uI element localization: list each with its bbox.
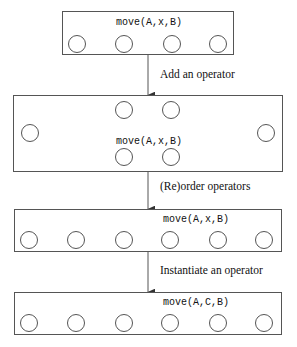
plan-step-node: [255, 314, 273, 332]
transition-add-operator-label: Add an operator: [160, 68, 235, 81]
plan-step-node: [115, 101, 133, 119]
plan-box-3: [14, 209, 282, 252]
plan-step-node: [67, 314, 85, 332]
plan-step-node: [20, 314, 38, 332]
plan-step-node: [209, 231, 227, 249]
transition-reorder-operators-label: (Re)order operators: [160, 180, 250, 193]
plan-box-2: [13, 95, 283, 172]
plan-step-node: [163, 35, 181, 53]
operator-label: move(A,x,B): [116, 17, 182, 28]
plan-step-node: [162, 101, 180, 119]
plan-step-node: [20, 231, 38, 249]
plan-step-node: [115, 314, 133, 332]
plan-step-node: [209, 35, 227, 53]
plan-step-node: [255, 231, 273, 249]
diagram-canvas: move(A,x,B)move(A,x,B)move(A,x,B)move(A,…: [0, 0, 297, 347]
operator-label: move(A,x,B): [163, 214, 229, 225]
plan-step-node: [257, 124, 275, 142]
operator-label: move(A,C,B): [163, 297, 229, 308]
plan-step-node: [68, 35, 86, 53]
plan-step-node: [209, 314, 227, 332]
plan-step-node: [67, 231, 85, 249]
plan-step-node: [115, 148, 133, 166]
plan-step-node: [21, 124, 39, 142]
plan-step-node: [161, 314, 179, 332]
operator-label: move(A,x,B): [116, 136, 182, 147]
plan-step-node: [161, 231, 179, 249]
plan-box-4: [14, 292, 282, 335]
transition-instantiate-operator-label: Instantiate an operator: [160, 264, 263, 277]
plan-step-node: [115, 231, 133, 249]
plan-step-node: [115, 35, 133, 53]
plan-step-node: [162, 148, 180, 166]
